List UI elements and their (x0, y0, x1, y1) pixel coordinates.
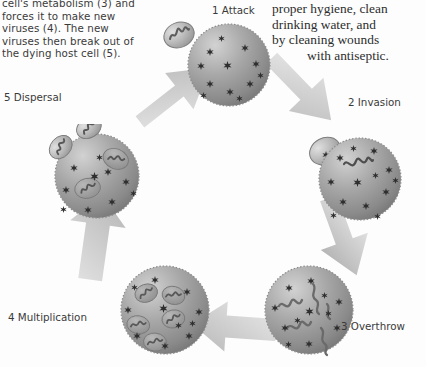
virus-cycle-figure: cell's metabolism (3) and forces it to m… (0, 0, 426, 367)
stage-label-attack: 1 Attack (212, 4, 255, 16)
cell-stage-multiplication (117, 262, 213, 358)
cell-stage-overthrow (261, 262, 357, 358)
caption-right-line: proper hygiene, clean (272, 1, 424, 17)
stage-label-multiplication: 4 Multiplication (8, 311, 87, 323)
caption-right: proper hygiene, clean drinking water, an… (272, 1, 424, 63)
caption-left: cell's metabolism (3) and forces it to m… (2, 0, 162, 60)
stage-label-overthrow: 3 Overthrow (341, 320, 405, 332)
caption-left-line: forces it to make new (2, 10, 162, 23)
caption-left-line: the dying host cell (5). (2, 47, 162, 60)
caption-right-last-line: with antiseptic. (272, 48, 424, 64)
cell-stage-invasion (308, 128, 406, 224)
caption-left-line: viruses then break out of (2, 35, 162, 48)
caption-left-line: viruses (4). The new (2, 22, 162, 35)
cell-stage-dispersal (44, 124, 146, 222)
virus-particle-free (162, 20, 198, 56)
caption-right-line: by cleaning wounds (272, 32, 424, 48)
stage-label-invasion: 2 Invasion (348, 96, 401, 108)
caption-left-line: cell's metabolism (3) and (2, 0, 162, 10)
caption-right-line: drinking water, and (272, 17, 424, 33)
cell-stage-attack (186, 22, 272, 108)
stage-label-dispersal: 5 Dispersal (4, 91, 62, 103)
